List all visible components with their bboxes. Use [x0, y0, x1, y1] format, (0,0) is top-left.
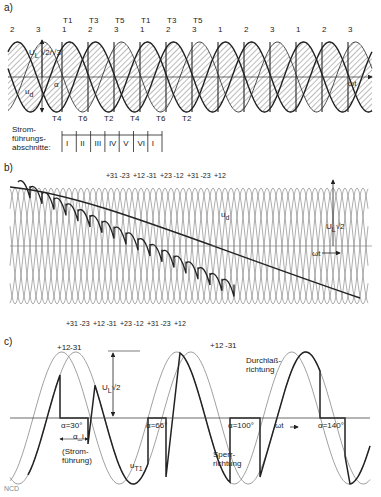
amp-subscript: L: [35, 52, 39, 59]
phase-label: 3: [192, 25, 196, 34]
ud-subscript: d: [225, 214, 229, 221]
phase-label: 1: [62, 25, 66, 34]
amp-fraction: √2/√3: [41, 48, 61, 57]
phase-pair-label-top: -23: [120, 171, 130, 180]
panel-a-label: a): [4, 2, 13, 13]
conduction-section: III: [95, 139, 102, 148]
phase-pair-label-top: -31: [147, 171, 157, 180]
panel-c-axis-label: ωt: [275, 421, 283, 430]
alpha-30-label: α=30°: [61, 421, 82, 430]
phase-pair-label-top: +31: [106, 171, 118, 180]
ud-subscript: d: [29, 91, 33, 98]
phase-label: 3: [348, 25, 352, 34]
phase-label: 3: [36, 25, 40, 34]
panel-b-ud-label: ud: [221, 210, 229, 222]
phase-label: 1: [218, 25, 222, 34]
phase-pair-label-bottom: +23: [120, 319, 132, 328]
phase-pair-label-bottom: +31: [66, 319, 78, 328]
thyristor-label-bottom: T6: [156, 114, 165, 123]
conduction-note-1: (Strom-: [62, 447, 89, 456]
panel-c-top-label-3: +12: [210, 341, 224, 350]
phase-pair-label-top: -23: [201, 171, 211, 180]
phase-pair-label-top: +12: [133, 171, 145, 180]
thyristor-label-bottom: T2: [182, 114, 191, 123]
conduction-section: II: [80, 139, 84, 148]
panel-a-amplitude-label: UL √2/√3: [29, 48, 61, 60]
alpha-i-label: α_i: [73, 432, 84, 441]
panel-c-top-label-2: -31: [70, 343, 82, 352]
conduction-note-2: führung): [62, 456, 92, 465]
phase-label: 2: [244, 25, 248, 34]
alpha-66-label: α=66°: [146, 421, 167, 430]
phase-label: 1: [140, 25, 144, 34]
phase-pair-label-bottom: +12: [174, 319, 186, 328]
phase-pair-label-top: +12: [214, 171, 226, 180]
thyristor-label-bottom: T2: [104, 114, 113, 123]
panel-b-amplitude-label: UL√2: [326, 222, 345, 234]
phase-pair-label-bottom: -23: [80, 319, 90, 328]
phase-pair-label-top: +31: [187, 171, 199, 180]
conduction-section: I: [66, 139, 68, 148]
conduction-section: IV: [109, 139, 117, 148]
conduction-section: I: [152, 139, 154, 148]
uT1-label: uT1: [130, 461, 143, 473]
thyristor-label-bottom: T6: [78, 114, 87, 123]
forward-direction-2: richtung: [246, 365, 274, 374]
conduction-caption-1: Strom-: [12, 125, 36, 134]
phase-pair-label-top: +23: [160, 171, 172, 180]
reverse-direction-1: Sperr-: [213, 450, 235, 459]
phase-pair-label-bottom: -12: [134, 319, 144, 328]
thyristor-label-top: T5: [193, 16, 202, 25]
phase-label: 3: [270, 25, 274, 34]
conduction-section: V: [123, 139, 128, 148]
phase-pair-label-bottom: -31: [107, 319, 117, 328]
panel-c-amplitude-label: UL√2: [102, 383, 121, 395]
panel-a-ud-label: ud: [25, 87, 33, 99]
phase-pair-label-bottom: +31: [147, 319, 159, 328]
thyristor-label-top: T3: [89, 16, 98, 25]
panel-c-top-label-4: -31: [225, 341, 237, 350]
panel-b-axis-label: ωt: [312, 249, 320, 258]
phase-label: 2: [322, 25, 326, 34]
panel-c-top-label-1: +12: [57, 343, 71, 352]
phase-pair-label-top: -12: [174, 171, 184, 180]
thyristor-label-top: T1: [141, 16, 150, 25]
thyristor-label-top: T1: [63, 16, 72, 25]
panel-b-waveforms: [10, 180, 372, 304]
amp-root: √2: [112, 383, 121, 392]
thyristor-label-bottom: T4: [130, 114, 139, 123]
phase-label: 3: [114, 25, 118, 34]
thyristor-label-top: T3: [167, 16, 176, 25]
phase-label: 2: [10, 25, 14, 34]
amp-root: √2: [336, 222, 345, 231]
thyristor-label-top: T5: [115, 16, 124, 25]
panel-a-alpha-label: α: [54, 80, 59, 89]
panel-a-waveforms: [8, 40, 372, 152]
phase-pair-label-bottom: +12: [93, 319, 105, 328]
panel-b-label: b): [4, 162, 13, 173]
alpha-100-label: α=100°: [228, 421, 254, 430]
phase-pair-label-bottom: -23: [161, 319, 171, 328]
conduction-section: VI: [138, 139, 146, 148]
panel-a-axis-label: ωt: [348, 79, 356, 88]
forward-direction-1: Durchlaß-: [246, 356, 281, 365]
alpha-140-label: α=140°: [318, 421, 344, 430]
conduction-caption-2: führungs-: [12, 134, 46, 143]
panel-c-label: c): [4, 336, 12, 347]
thyristor-label-bottom: T4: [52, 114, 61, 123]
conduction-caption-3: abschnitte:: [12, 143, 51, 152]
phase-label: 2: [88, 25, 92, 34]
uT1-subscript: T1: [134, 465, 142, 472]
reverse-direction-2: richtung: [213, 459, 241, 468]
phase-label: 2: [166, 25, 170, 34]
phase-label: 1: [296, 25, 300, 34]
corner-mark: NCD: [4, 484, 19, 493]
